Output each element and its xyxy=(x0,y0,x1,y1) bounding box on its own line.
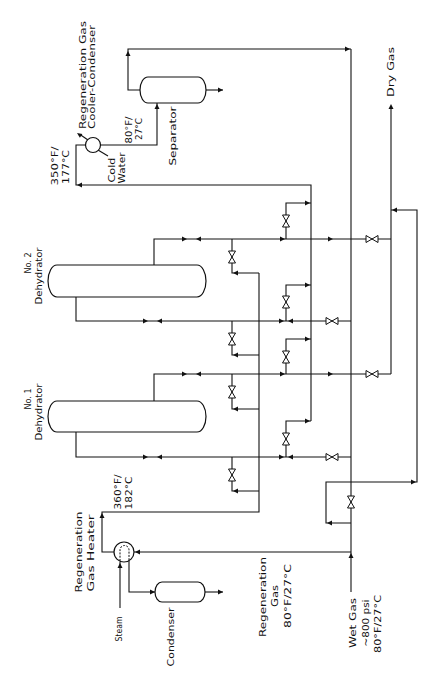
separator-label: Separator xyxy=(168,106,178,165)
cooler-condenser-label-line2: Cooler-Condenser xyxy=(87,25,97,129)
arrow-right-icon xyxy=(305,337,310,342)
regen-in-branch-no1-bottom xyxy=(232,457,259,491)
no2-dehydrator-number: No. 2 xyxy=(23,253,33,274)
arrow-right-icon xyxy=(305,419,310,424)
arrow-left-icon xyxy=(157,455,162,460)
process-flow-diagram: Regeneration Gas Cooler-Condenser 350°F/… xyxy=(0,0,432,673)
cold-water-label-line1: Cold xyxy=(107,158,117,183)
regen-in-branch-no2-bottom xyxy=(232,321,259,355)
steam-label: Steam xyxy=(114,617,124,642)
valve-icon xyxy=(366,236,378,243)
no1-bottom-line xyxy=(76,432,351,457)
arrow-right-icon xyxy=(328,372,333,377)
arrow-right-icon xyxy=(218,88,223,93)
arrow-left-icon xyxy=(288,319,293,324)
arrow-up-icon xyxy=(155,104,160,109)
arrow-right-icon xyxy=(305,201,310,206)
cooler-inlet-temp-c: 177°C xyxy=(61,150,71,184)
regen-gas-label-line2: Gas xyxy=(270,585,280,607)
arrow-left-icon xyxy=(77,183,82,188)
wet-gas-temperature: 80°F/27°C xyxy=(373,595,383,653)
arrow-left-icon xyxy=(196,237,201,242)
dry-gas-label: Dry Gas xyxy=(386,47,396,97)
valve-icon xyxy=(283,433,290,445)
cold-water-in-line xyxy=(98,150,108,156)
valve-icon xyxy=(366,371,378,378)
cooler-inlet-temp-f: 350°F/ xyxy=(50,145,60,185)
cooler-outlet-temp-f: 80°F/ xyxy=(124,115,134,143)
heater-outlet-temp-f: 360°F/ xyxy=(113,473,123,509)
no1-dehydrator-vessel xyxy=(48,401,206,432)
valve-icon xyxy=(283,215,290,227)
arrow-up-icon xyxy=(118,563,123,568)
valve-icon xyxy=(326,318,338,325)
valve-icon xyxy=(229,333,236,345)
heater-outlet-temp-c: 182°C xyxy=(124,477,134,510)
regen-gas-temperature: 80°F/27°C xyxy=(283,564,293,628)
valves xyxy=(229,215,379,508)
regen-out-branch-no2-bottom xyxy=(286,285,311,321)
wet-gas-arrow-up-icon xyxy=(349,553,354,558)
wet-gas-label: Wet Gas xyxy=(348,598,358,648)
arrow-right-icon xyxy=(411,480,416,485)
arrow-right-icon xyxy=(143,455,148,460)
arrow-right-icon xyxy=(218,590,223,595)
cold-water-label-line2: Water xyxy=(117,152,127,183)
arrow-left-icon xyxy=(233,489,238,494)
arrow-up-icon xyxy=(126,51,131,56)
arrow-right-icon xyxy=(143,319,148,324)
arrow-left-icon xyxy=(157,319,162,324)
cooler-outlet-temp-c: 27°C xyxy=(134,118,144,140)
regen-in-branch-no1-top xyxy=(232,374,259,409)
valve-icon xyxy=(229,469,236,481)
heater-label-line1: Regeneration xyxy=(74,512,84,593)
labels: Regeneration Gas Cooler-Condenser 350°F/… xyxy=(23,21,396,667)
no2-bottom-line xyxy=(76,297,351,321)
regen-out-branch-no1-bottom xyxy=(286,421,311,457)
wet-gas-pressure: ~800 psi xyxy=(361,600,371,647)
regen-out-branch-no2-top xyxy=(286,203,311,239)
regen-gas-heater-symbol xyxy=(114,542,134,562)
arrow-up-icon xyxy=(100,513,105,518)
valve-icon xyxy=(283,296,290,308)
condenser-vessel xyxy=(155,582,205,602)
arrow-left-icon xyxy=(288,455,293,460)
no2-dehydrator-name: Dehydrator xyxy=(34,247,44,304)
arrow-right-icon xyxy=(182,372,187,377)
valve-icon xyxy=(283,351,290,363)
arrow-left-icon xyxy=(135,550,140,555)
bypass-line xyxy=(326,210,417,523)
arrow-left-icon xyxy=(233,407,238,412)
no1-dehydrator-name: Dehydrator xyxy=(34,383,44,440)
arrow-right-icon xyxy=(280,237,285,242)
no1-top-line xyxy=(154,374,391,401)
valve-icon xyxy=(326,454,338,461)
wet-gas-valve-icon xyxy=(348,496,355,508)
separator-vessel xyxy=(140,77,206,103)
valve-icon xyxy=(229,251,236,263)
arrow-right-icon xyxy=(182,237,187,242)
no1-dehydrator-number: No. 1 xyxy=(23,389,33,410)
equipment xyxy=(48,77,206,602)
condensate-line xyxy=(129,561,155,592)
arrow-left-icon xyxy=(233,271,238,276)
dry-gas-arrow-up-icon xyxy=(389,104,394,109)
heater-label-line2: Gas Heater xyxy=(86,514,96,591)
arrow-right-icon xyxy=(279,319,284,324)
regen-out-branch-no1-top xyxy=(286,339,311,374)
arrow-right-icon xyxy=(305,283,310,288)
no2-dehydrator-vessel xyxy=(48,265,206,297)
regen-in-branch-no2-top xyxy=(232,239,259,273)
arrow-right-icon xyxy=(280,372,285,377)
valve-icon xyxy=(229,386,236,398)
arrow-right-icon xyxy=(328,237,333,242)
no2-top-line xyxy=(154,239,391,265)
arrow-left-icon xyxy=(233,353,238,358)
regen-gas-label-line1: Regeneration xyxy=(258,557,268,637)
arrow-right-icon xyxy=(150,590,155,595)
diagram-svg: Regeneration Gas Cooler-Condenser 350°F/… xyxy=(0,0,432,673)
arrow-left-icon xyxy=(196,372,201,377)
condenser-label: Condenser xyxy=(166,607,176,666)
arrow-right-icon xyxy=(279,455,284,460)
arrow-right-icon xyxy=(345,47,350,52)
